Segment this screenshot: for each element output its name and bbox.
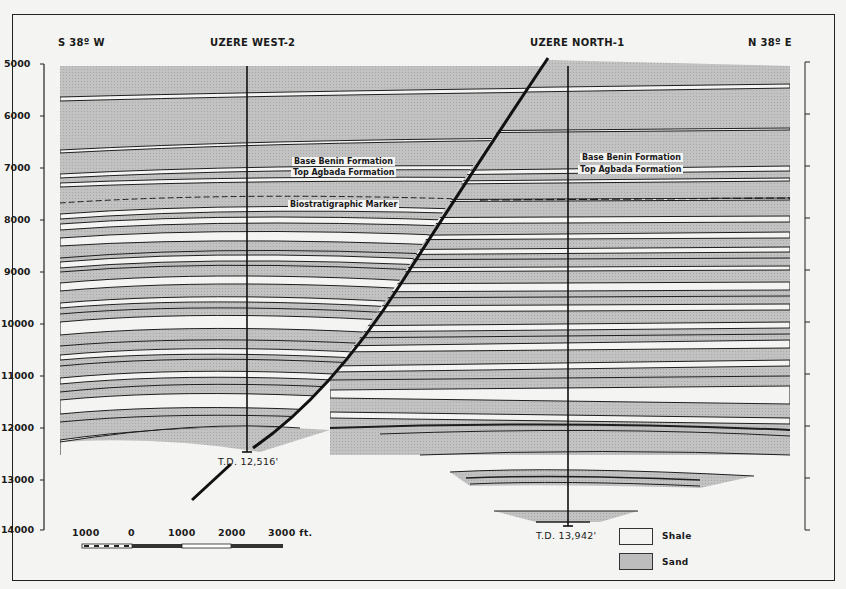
- scale-label-3000: 3000 ft.: [268, 527, 312, 538]
- depth-tick-6000: 6000: [4, 110, 30, 121]
- scale-label-1000: 1000: [168, 527, 196, 538]
- scale-label-2000: 2000: [218, 527, 246, 538]
- depth-tick-7000: 7000: [4, 162, 30, 173]
- td-north-label: T.D. 13,942': [536, 530, 597, 541]
- legend-swatch-shale: [619, 528, 653, 545]
- label-north-top-agbada: Top Agbada Formation: [578, 165, 683, 174]
- label-north-base-benin: Base Benin Formation: [580, 153, 683, 162]
- depth-tick-11000: 11000: [1, 370, 34, 381]
- label-west-base-benin: Base Benin Formation: [292, 157, 395, 166]
- depth-tick-9000: 9000: [4, 266, 30, 277]
- scale-label-1000-left: 1000: [72, 527, 100, 538]
- depth-tick-10000: 10000: [1, 318, 34, 329]
- depth-tick-5000: 5000: [4, 58, 30, 69]
- scale-bar: [82, 544, 283, 548]
- cross-section-diagram: [0, 0, 846, 589]
- legend-label-shale: Shale: [662, 531, 692, 541]
- right-depth-bracket: [805, 62, 810, 530]
- depth-tick-8000: 8000: [4, 214, 30, 225]
- depth-axis: [40, 64, 44, 530]
- legend-label-sand: Sand: [662, 557, 689, 567]
- depth-tick-14000: 14000: [1, 524, 34, 535]
- label-west-top-agbada: Top Agbada Formation: [291, 168, 396, 177]
- depth-tick-13000: 13000: [1, 474, 34, 485]
- td-west-label: T.D. 12,516': [218, 456, 279, 467]
- well-label-uzere-north-1: UZERE NORTH-1: [530, 37, 625, 48]
- bearing-right: N 38º E: [748, 37, 792, 48]
- depth-tick-12000: 12000: [1, 422, 34, 433]
- label-biostratigraphic-marker: Biostratigraphic Marker: [288, 200, 399, 209]
- lower-sand-lenses: [380, 430, 790, 522]
- legend-swatch-sand: [619, 553, 653, 570]
- bearing-left: S 38º W: [58, 37, 105, 48]
- scale-label-0: 0: [128, 527, 135, 538]
- well-label-uzere-west-2: UZERE WEST-2: [210, 37, 295, 48]
